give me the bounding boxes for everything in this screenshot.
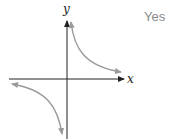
hyperbola-branch-quadrant-1 [71, 22, 121, 72]
x-axis-label: x [127, 72, 134, 86]
answer-text: Yes [144, 9, 165, 24]
y-axis-label: y [62, 2, 70, 16]
hyperbola-branch-quadrant-3 [12, 84, 62, 134]
